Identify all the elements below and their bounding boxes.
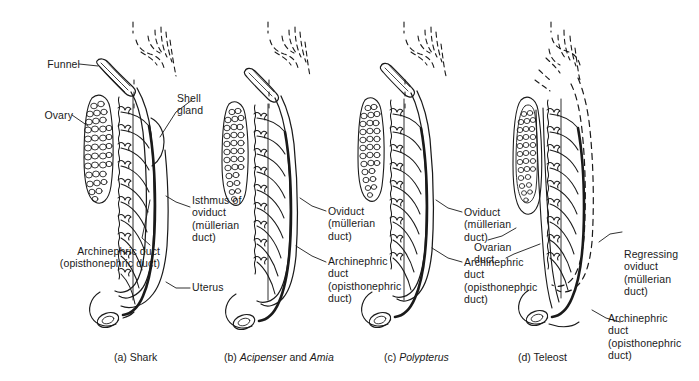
kidney-margin-d: [547, 100, 548, 269]
label-ovary: Ovary: [8, 109, 73, 121]
label-archinephric-duct-a: Archinephric duct (opisthonephric duct): [2, 245, 160, 270]
kidney-margin-c: [390, 100, 391, 269]
caption-c-genus: Polypterus: [399, 351, 449, 363]
ovary-c: [358, 98, 384, 201]
ovary-b: [222, 102, 248, 205]
caption-panel-a: (a) Shark: [114, 351, 157, 363]
label-archinephric-duct-d: Archinephric duct (opisthonephric duct): [608, 312, 699, 362]
caption-b-genus-1: Acipenser: [240, 351, 287, 363]
label-shell-gland: Shell gland: [177, 92, 237, 117]
caption-panel-d: (d) Teleost: [518, 351, 567, 363]
label-regressing-oviduct-d: Regressing oviduct (müllerian duct): [624, 248, 698, 298]
cloaca-a: [90, 292, 116, 326]
label-ovarian-duct-d: Ovarian duct: [474, 241, 532, 266]
caption-b-genus-2: Amia: [310, 351, 334, 363]
caption-panel-b: (b) Acipenser and Amia: [224, 351, 334, 363]
label-archinephric-duct-b: Archinephric duct (opisthonephric duct): [328, 255, 416, 305]
label-isthmus-of-oviduct: Isthmus of oviduct (müllerian duct): [192, 194, 264, 244]
caption-b-letter: (b): [224, 351, 237, 363]
label-uterus: Uterus: [192, 281, 252, 293]
caption-panel-c: (c) Polypterus: [384, 351, 449, 363]
ovary-d: [513, 97, 542, 214]
caption-c-letter: (c): [384, 351, 396, 363]
label-oviduct-c: Oviduct (müllerian duct): [464, 206, 532, 243]
cloaca-b: [226, 294, 252, 328]
label-oviduct-b: Oviduct (müllerian duct): [328, 205, 398, 242]
ovary-a: [84, 95, 113, 203]
figure-artwork: [0, 0, 699, 381]
anatomy-figure: Funnel Ovary Shell gland Isthmus of ovid…: [0, 0, 699, 381]
panel-a-artwork: [84, 22, 176, 330]
label-funnel: Funnel: [8, 58, 80, 70]
caption-b-and: and: [289, 351, 307, 363]
leader-lines-c: [432, 200, 462, 262]
leader-lines-b: [296, 198, 326, 262]
